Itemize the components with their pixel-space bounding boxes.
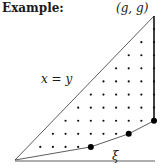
lattice-point bbox=[102, 93, 104, 95]
lattice-point bbox=[90, 107, 92, 109]
lattice-point bbox=[128, 67, 130, 69]
lattice-point bbox=[52, 146, 54, 148]
lattice-point bbox=[39, 146, 41, 148]
xi-path bbox=[15, 121, 154, 160]
lattice-point bbox=[140, 54, 142, 56]
path-vertex-point bbox=[88, 144, 94, 150]
lattice-point bbox=[153, 80, 155, 82]
lattice-point bbox=[128, 80, 130, 82]
lattice-point bbox=[115, 133, 117, 135]
lattice-point bbox=[128, 120, 130, 122]
lattice-point bbox=[128, 107, 130, 109]
lattice-point bbox=[102, 133, 104, 135]
lattice-point bbox=[52, 133, 54, 135]
lattice-point bbox=[64, 146, 66, 148]
lattice-point bbox=[128, 54, 130, 56]
lattice-point bbox=[140, 67, 142, 69]
lattice-point bbox=[153, 41, 155, 43]
lattice-point bbox=[77, 133, 79, 135]
path-vertex-point bbox=[126, 131, 132, 137]
lattice-point bbox=[77, 146, 79, 148]
diagonal-line bbox=[15, 16, 154, 160]
lattice-point bbox=[115, 80, 117, 82]
lattice-point bbox=[64, 120, 66, 122]
diagonal-label: x = y bbox=[41, 72, 72, 86]
lattice-point bbox=[140, 107, 142, 109]
lattice-point bbox=[115, 107, 117, 109]
lattice-point bbox=[153, 54, 155, 56]
lattice-point bbox=[90, 93, 92, 95]
lattice-point bbox=[140, 80, 142, 82]
corner-label: (g, g) bbox=[116, 1, 149, 15]
lattice-point bbox=[102, 120, 104, 122]
lattice-point bbox=[153, 93, 155, 95]
lattice-point bbox=[153, 107, 155, 109]
path-vertex-point bbox=[151, 118, 157, 124]
lattice-point bbox=[115, 93, 117, 95]
lattice-point bbox=[90, 133, 92, 135]
lattice-point bbox=[140, 41, 142, 43]
lattice-point bbox=[128, 93, 130, 95]
lattice-points bbox=[39, 28, 155, 148]
lattice-point bbox=[140, 120, 142, 122]
lattice-point bbox=[153, 67, 155, 69]
lattice-point bbox=[64, 133, 66, 135]
lattice-point bbox=[115, 120, 117, 122]
lattice-point bbox=[77, 120, 79, 122]
marked-points bbox=[88, 118, 157, 150]
lattice-point bbox=[102, 80, 104, 82]
lattice-point bbox=[90, 120, 92, 122]
lattice-point bbox=[102, 107, 104, 109]
lattice-diagram: Example: (g, g) x = y ξ bbox=[0, 0, 165, 168]
lattice-point bbox=[140, 93, 142, 95]
lattice-point bbox=[77, 107, 79, 109]
lattice-point bbox=[153, 28, 155, 30]
example-title: Example: bbox=[2, 1, 64, 15]
lattice-point bbox=[115, 67, 117, 69]
